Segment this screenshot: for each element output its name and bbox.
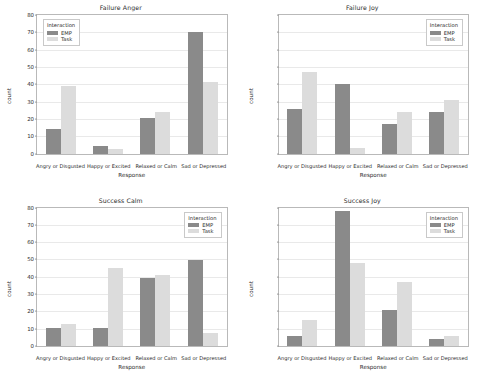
- legend-swatch-emp: [47, 31, 58, 35]
- bar-emp: [382, 310, 397, 346]
- bar-emp: [188, 260, 203, 346]
- y-tick-label: 70: [27, 29, 34, 35]
- x-tick-label: Happy or Excited: [85, 355, 133, 361]
- x-tick-label: Angry or Disgusted: [36, 355, 85, 361]
- y-tick-label: 40: [27, 274, 34, 280]
- legend-title: Interaction: [188, 215, 216, 221]
- x-tick-label: Relaxed or Calm: [374, 163, 422, 169]
- x-tick-label: Sad or Depressed: [421, 355, 469, 361]
- legend-title: Interaction: [47, 22, 75, 28]
- bar-task: [61, 324, 76, 347]
- x-tick-label: Relaxed or Calm: [132, 355, 180, 361]
- bar-emp: [188, 32, 203, 153]
- x-tick-labels: Angry or DisgustedHappy or ExcitedRelaxe…: [36, 163, 228, 169]
- y-tick-label: 40: [27, 81, 34, 87]
- bar-emp: [287, 336, 302, 346]
- legend-label-task: Task: [61, 36, 72, 42]
- legend-label-task: Task: [444, 228, 455, 234]
- legend-title: Interaction: [430, 22, 458, 28]
- legend-swatch-emp: [430, 31, 441, 35]
- bar-task: [350, 263, 365, 346]
- bar-group: [373, 208, 420, 347]
- bar-group: [132, 208, 179, 347]
- bar-task: [155, 112, 170, 154]
- legend-item-task: Task: [430, 228, 458, 234]
- bar-emp: [335, 84, 350, 153]
- bar-emp: [140, 278, 155, 346]
- legend-swatch-emp: [188, 223, 199, 227]
- x-tick-label: Sad or Depressed: [180, 355, 228, 361]
- bar-group: [326, 208, 373, 347]
- bar-emp: [429, 112, 444, 154]
- plot-area: 01020304050607080 Interaction EMP Task: [36, 14, 228, 155]
- legend-swatch-emp: [430, 223, 441, 227]
- legend-swatch-task: [430, 229, 441, 233]
- y-tick-label: 80: [27, 205, 34, 211]
- bar-group: [84, 15, 131, 154]
- x-axis-label: Response: [278, 172, 470, 178]
- panel-title: Failure Joy: [242, 4, 483, 11]
- bar-group: [179, 15, 226, 154]
- bar-group: [37, 208, 84, 347]
- bar-task: [397, 282, 412, 346]
- x-tick-label: Happy or Excited: [326, 163, 374, 169]
- x-tick-label: Angry or Disgusted: [36, 163, 85, 169]
- bar-task: [203, 333, 218, 346]
- x-tick-labels: Angry or DisgustedHappy or ExcitedRelaxe…: [278, 355, 470, 361]
- x-axis-label: Response: [36, 172, 228, 178]
- bar-emp: [335, 211, 350, 346]
- y-axis-label: count: [248, 88, 254, 104]
- y-tick-label: 30: [27, 291, 34, 297]
- bar-task: [108, 268, 123, 346]
- y-tick-label: 60: [27, 47, 34, 53]
- legend-swatch-task: [47, 37, 58, 41]
- bar-emp: [93, 328, 108, 346]
- x-tick-labels: Angry or DisgustedHappy or ExcitedRelaxe…: [278, 163, 470, 169]
- y-tick-label: 20: [27, 308, 34, 314]
- bar-task: [203, 82, 218, 154]
- bar-emp: [287, 109, 302, 154]
- x-axis-label: Response: [278, 364, 470, 370]
- bar-task: [108, 149, 123, 153]
- y-tick-label: 0: [31, 151, 34, 157]
- bar-emp: [93, 146, 108, 154]
- legend-item-task: Task: [188, 228, 216, 234]
- bar-group: [279, 208, 326, 347]
- panel-title: Success Joy: [242, 197, 483, 204]
- bar-task: [350, 148, 365, 153]
- bar-emp: [140, 118, 155, 153]
- y-tick-label: 10: [27, 326, 34, 332]
- x-tick-label: Sad or Depressed: [180, 163, 228, 169]
- y-tick-label: 30: [27, 99, 34, 105]
- legend-swatch-task: [430, 37, 441, 41]
- y-tick-label: 80: [27, 12, 34, 18]
- y-axis-label: count: [6, 88, 12, 104]
- y-axis-label: count: [6, 281, 12, 297]
- legend-swatch-task: [188, 229, 199, 233]
- bar-task: [155, 275, 170, 346]
- y-tick-label: 50: [27, 256, 34, 262]
- bar-emp: [429, 339, 444, 346]
- bar-emp: [46, 129, 61, 153]
- y-tick-label: 0: [31, 343, 34, 349]
- y-axis-label: count: [248, 281, 254, 297]
- chart-panel-success-joy: Success Joy count Interaction EMP Task A…: [242, 193, 483, 385]
- chart-panel-failure-joy: Failure Joy count Interaction EMP Task A…: [242, 0, 483, 193]
- chart-panel-failure-anger: Failure Anger count 01020304050607080 In…: [0, 0, 242, 193]
- x-tick-label: Relaxed or Calm: [132, 163, 180, 169]
- bar-task: [61, 86, 76, 154]
- legend: Interaction EMP Task: [426, 19, 463, 46]
- bar-emp: [46, 328, 61, 346]
- bar-group: [279, 15, 326, 154]
- panel-title: Failure Anger: [0, 4, 242, 11]
- y-tick-label: 20: [27, 116, 34, 122]
- bar-task: [444, 336, 459, 346]
- x-tick-label: Happy or Excited: [85, 163, 133, 169]
- plot-area: Interaction EMP Task: [278, 14, 470, 155]
- x-tick-label: Angry or Disgusted: [278, 355, 327, 361]
- legend-item-task: Task: [47, 36, 75, 42]
- x-tick-labels: Angry or DisgustedHappy or ExcitedRelaxe…: [36, 355, 228, 361]
- y-tick-label: 60: [27, 239, 34, 245]
- y-tick-label: 70: [27, 222, 34, 228]
- bar-emp: [382, 124, 397, 153]
